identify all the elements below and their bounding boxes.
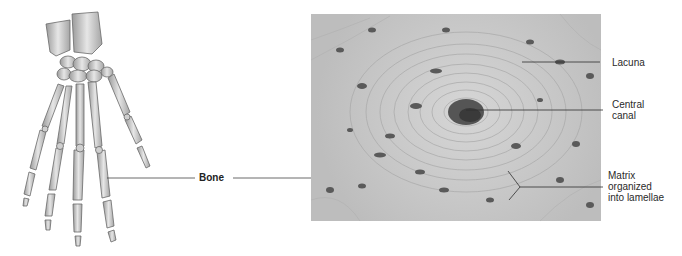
central-canal-label: Central canal — [612, 99, 644, 121]
central-canal-label-line1: Central — [612, 99, 644, 110]
lacuna-label: Lacuna — [612, 57, 645, 68]
matrix-label-line2: organized — [608, 181, 664, 192]
matrix-label-line3: into lamellae — [608, 192, 664, 203]
hand-skeleton-illustration — [23, 12, 150, 246]
central-canal-label-line2: canal — [612, 110, 644, 121]
matrix-label: Matrix organized into lamellae — [608, 170, 664, 203]
bone-label: Bone — [199, 172, 224, 183]
figure-artwork — [0, 0, 682, 256]
bone-micrograph — [311, 14, 601, 221]
matrix-label-line1: Matrix — [608, 170, 664, 181]
